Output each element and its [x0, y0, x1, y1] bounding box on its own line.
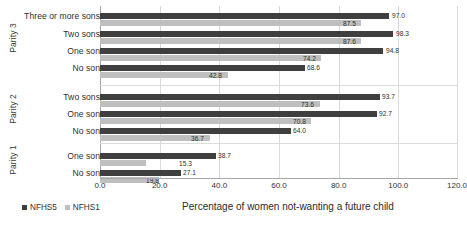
- bar-value-p3-no-son-nfhs1: 42.8: [209, 73, 222, 79]
- bar-p3-two-sons-nfhs5: [100, 31, 393, 37]
- bar-p3-three-or-more-sons-nfhs1: [100, 20, 361, 26]
- category-label-p1-one-son: One son: [67, 151, 100, 161]
- bar-p3-no-son-nfhs5: [100, 65, 305, 71]
- x-tick-0: 0.0: [94, 181, 105, 190]
- x-tick-80: 80.0: [331, 181, 347, 190]
- bar-p2-two-sons-nfhs1: [100, 101, 320, 107]
- bar-value-p2-one-son-nfhs5: 92.7: [379, 111, 392, 117]
- legend-label-nfhs5: NFHS5: [30, 203, 57, 212]
- bar-value-p1-one-son-nfhs5: 38.7: [218, 153, 231, 159]
- bar-p3-one-son-nfhs1: [100, 55, 321, 61]
- bar-value-p2-two-sons-nfhs5: 93.7: [382, 94, 395, 100]
- plot-area: 97.0 87.5 98.3 87.6 94.8 74.2 68.6 42.8 …: [100, 6, 458, 178]
- bar-value-p3-one-son-nfhs1: 74.2: [303, 56, 316, 62]
- bar-p2-one-son-nfhs5: [100, 111, 377, 117]
- bar-p1-no-son-nfhs5: [100, 170, 181, 176]
- legend-label-nfhs1: NFHS1: [73, 203, 100, 212]
- bar-value-p2-no-son-nfhs1: 36.7: [191, 136, 204, 142]
- x-tick-60: 60.0: [271, 181, 287, 190]
- legend-swatch-nfhs5-icon: [22, 205, 27, 210]
- bar-p3-two-sons-nfhs1: [100, 38, 361, 44]
- category-label-p3-no-son: No son: [72, 63, 100, 73]
- bar-p2-one-son-nfhs1: [100, 118, 311, 124]
- x-tick-100: 100.0: [388, 181, 408, 190]
- x-axis-title: Percentage of women not-wanting a future…: [148, 201, 428, 212]
- x-axis-line: [100, 178, 458, 179]
- gridline-120: [457, 6, 458, 178]
- category-label-p2-two-sons: Two sons: [63, 92, 100, 102]
- bar-value-p3-three-or-more-sons-nfhs5: 97.0: [392, 13, 405, 19]
- category-label-p2-one-son: One son: [67, 109, 100, 119]
- bar-p1-one-son-nfhs1: [100, 160, 146, 166]
- bar-p3-one-son-nfhs5: [100, 48, 383, 54]
- legend-swatch-nfhs1-icon: [65, 205, 70, 210]
- bar-p2-no-son-nfhs5: [100, 128, 291, 134]
- bar-value-p3-three-or-more-sons-nfhs1: 87.5: [343, 21, 356, 27]
- bar-value-p2-two-sons-nfhs1: 73.6: [301, 102, 314, 108]
- bar-p1-one-son-nfhs5: [100, 153, 216, 159]
- group-separator-2: [100, 143, 458, 144]
- chart-legend: NFHS5 NFHS1: [22, 203, 100, 212]
- bar-p2-two-sons-nfhs5: [100, 94, 380, 100]
- category-label-p1-no-son: No son: [72, 168, 100, 178]
- bar-value-p3-one-son-nfhs5: 94.8: [386, 48, 399, 54]
- legend-item-nfhs5[interactable]: NFHS5: [22, 203, 57, 212]
- bar-value-p1-one-son-nfhs1: 15.3: [179, 161, 192, 167]
- category-label-p3-two-sons: Two sons: [63, 29, 100, 39]
- x-axis-ticks: 0.0 20.0 40.0 60.0 80.0 100.0 120.0: [100, 180, 458, 194]
- bar-value-p3-no-son-nfhs5: 68.6: [307, 65, 320, 71]
- bar-value-p3-two-sons-nfhs5: 98.3: [396, 31, 409, 37]
- bar-value-p2-no-son-nfhs5: 64.0: [293, 128, 306, 134]
- category-label-p2-no-son: No son: [72, 126, 100, 136]
- x-tick-20: 20.0: [152, 181, 168, 190]
- group-separator-1: [100, 85, 458, 86]
- x-tick-40: 40.0: [212, 181, 228, 190]
- category-label-p3-one-son: One son: [67, 46, 100, 56]
- bar-value-p3-two-sons-nfhs1: 87.6: [343, 39, 356, 45]
- category-label-column: Three or more sons Two sons One son No s…: [16, 0, 100, 180]
- category-label-p3-three-or-more-sons: Three or more sons: [24, 11, 100, 21]
- x-tick-120: 120.0: [447, 181, 467, 190]
- legend-item-nfhs1[interactable]: NFHS1: [65, 203, 100, 212]
- bar-value-p2-one-son-nfhs1: 70.8: [293, 119, 306, 125]
- bar-p3-three-or-more-sons-nfhs5: [100, 13, 389, 19]
- bar-value-p1-no-son-nfhs5: 27.1: [183, 170, 196, 176]
